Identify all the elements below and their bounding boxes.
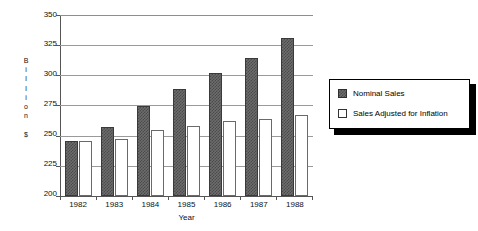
x-tick-label: 1984 (132, 200, 168, 209)
y-tick-label: 200 (33, 190, 57, 198)
y-axis-title-letter: l (18, 74, 34, 83)
bar-1985-adjusted (187, 126, 200, 196)
bar-1985-nominal (173, 89, 186, 196)
legend-entry-sales-adjusted-for-inflation: Sales Adjusted for Inflation (338, 109, 448, 118)
y-tick-label: 300 (33, 70, 57, 78)
x-tick-label: 1985 (168, 200, 204, 209)
legend-label: Nominal Sales (353, 89, 405, 98)
plot-area (60, 15, 313, 196)
y-tick-label: 350 (33, 11, 57, 19)
bar-1983-adjusted (115, 139, 128, 196)
y-axis-title-letter: B (18, 56, 34, 65)
bar-1987-adjusted (259, 119, 272, 196)
x-tick-label: 1988 (277, 200, 313, 209)
y-axis-title-letter: i (18, 93, 34, 102)
y-axis-tick-labels: 350 325 300 275 250 225 200 (33, 0, 57, 231)
legend-label: Sales Adjusted for Inflation (353, 109, 448, 118)
y-tick-label: 275 (33, 100, 57, 108)
x-tick-label: 1983 (96, 200, 132, 209)
legend-box: Nominal Sales Sales Adjusted for Inflati… (329, 79, 470, 129)
y-tick-label: 250 (33, 130, 57, 138)
bar-1986-adjusted (223, 121, 236, 196)
x-tick-label: 1986 (205, 200, 241, 209)
bar-1982-nominal (65, 141, 78, 197)
legend-swatch-icon-nominal (338, 89, 347, 98)
bar-1984-adjusted (151, 130, 164, 196)
y-axis-title-letter-spacer (18, 120, 34, 129)
y-axis-title-letter: i (18, 65, 34, 74)
y-axis-title: B i l l i o n $ (18, 56, 34, 139)
y-axis-title-letter: o (18, 102, 34, 111)
y-axis-title-letter: $ (18, 130, 34, 139)
legend-swatch-icon-adjusted (338, 109, 347, 118)
legend-entry-nominal-sales: Nominal Sales (338, 89, 405, 98)
x-tick-label: 1982 (60, 200, 96, 209)
bars-layer (60, 15, 313, 197)
y-tick-label: 225 (33, 160, 57, 168)
y-axis-title-letter: l (18, 84, 34, 93)
x-axis-tick-labels: 1982198319841985198619871988 (60, 200, 313, 212)
bar-1986-nominal (209, 73, 222, 196)
bar-1982-adjusted (79, 141, 92, 197)
y-axis-title-letter: n (18, 111, 34, 120)
bar-1983-nominal (101, 127, 114, 196)
x-axis-title: Year (60, 213, 313, 222)
y-tick-label: 325 (33, 40, 57, 48)
bar-1987-nominal (245, 58, 258, 196)
bar-1988-adjusted (295, 115, 308, 196)
bar-1984-nominal (137, 106, 150, 197)
chart-figure: B i l l i o n $ 350 325 300 275 250 225 … (0, 0, 478, 231)
bar-1988-nominal (281, 38, 294, 196)
x-tick-label: 1987 (241, 200, 277, 209)
